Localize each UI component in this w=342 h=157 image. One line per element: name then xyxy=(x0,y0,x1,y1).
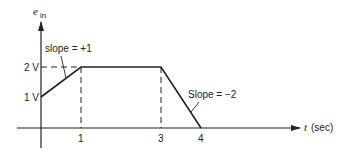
x-axis-label-var: t xyxy=(304,121,308,133)
y-axis-label: e xyxy=(33,5,38,17)
slope-up-label: slope = +1 xyxy=(45,43,92,54)
x-axis-label-unit: (sec) xyxy=(311,122,333,133)
x-tick-4: 4 xyxy=(198,133,204,144)
x-tick-3: 3 xyxy=(158,133,164,144)
y-axis-label-subscript: in xyxy=(40,11,46,20)
y-tick-1v: 1 V xyxy=(24,92,39,103)
slope-down-leader xyxy=(191,102,199,112)
y-tick-2v: 2 V xyxy=(24,62,39,73)
waveform-diagram: e in t (sec) 2 V 1 V 1 3 4 slope = +1 Sl… xyxy=(0,0,342,157)
waveform-line xyxy=(41,67,201,128)
x-tick-1: 1 xyxy=(78,133,84,144)
slope-down-label: Slope = −2 xyxy=(188,89,237,100)
